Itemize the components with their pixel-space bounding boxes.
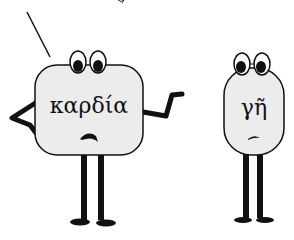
right-leg [98,150,104,220]
pupil-right [256,61,266,73]
label-ge: γῆ [241,95,267,120]
illustration: καρδία γῆ [0,0,294,240]
caption-pointer-line [27,12,50,57]
pupil-left [236,61,246,73]
character-ge: γῆ [224,53,284,223]
label-kardia: καρδία [50,93,128,118]
left-leg [243,154,249,218]
right-foot [256,217,274,223]
left-foot [70,219,90,226]
cropped-caption-remnant [118,0,124,3]
right-arm [143,94,182,116]
left-leg [81,150,87,220]
pupil-right [93,60,103,72]
left-arm [12,102,37,133]
character-kardia: καρδία [12,51,182,227]
pupil-left [73,60,83,72]
left-foot [234,217,252,223]
right-foot [96,220,116,227]
right-leg [257,154,263,218]
